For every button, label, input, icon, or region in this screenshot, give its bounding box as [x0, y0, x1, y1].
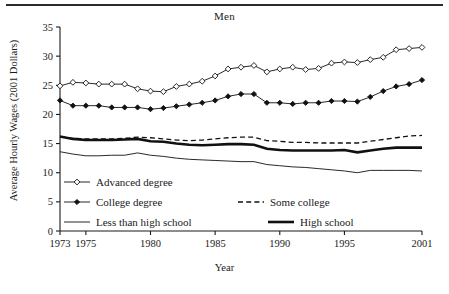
data-point-marker — [316, 100, 321, 105]
legend-label: Less than high school — [96, 216, 192, 228]
plot-area: 0510152025303519731975198019851990199520… — [0, 0, 449, 294]
data-point-marker — [419, 77, 424, 82]
data-point-marker — [406, 82, 411, 87]
x-tick-label: 2001 — [412, 238, 433, 249]
data-point-marker — [83, 80, 89, 86]
data-point-marker — [367, 57, 373, 63]
data-point-marker — [329, 60, 335, 66]
data-point-marker — [251, 91, 256, 96]
x-tick-label: 1995 — [334, 238, 355, 249]
y-tick-label: 25 — [43, 80, 54, 91]
data-point-marker — [303, 67, 309, 73]
data-point-marker — [316, 65, 322, 71]
data-point-marker — [355, 99, 360, 104]
data-point-marker — [187, 102, 192, 107]
axes: 0510152025303519731975198019851990199520… — [43, 22, 433, 249]
data-point-marker — [380, 54, 386, 60]
y-tick-label: 5 — [48, 196, 53, 207]
data-point-marker — [213, 98, 218, 103]
series-less-than-high-school — [60, 152, 422, 173]
data-point-marker — [96, 81, 102, 87]
legend-item-high-school: High school — [268, 216, 353, 228]
wage-chart-figure: Men Average Hourly Wages (2001 Dollars) … — [0, 0, 449, 294]
data-point-marker — [122, 105, 127, 110]
data-point-marker — [70, 103, 75, 108]
data-point-marker — [329, 98, 334, 103]
x-tick-label: 1990 — [269, 238, 290, 249]
data-point-marker — [57, 98, 62, 103]
data-point-marker — [264, 69, 270, 75]
data-point-marker — [342, 59, 348, 65]
data-point-marker — [290, 101, 295, 106]
series-advanced-degree — [57, 45, 425, 95]
x-tick-label: 1973 — [50, 238, 71, 249]
data-point-marker — [148, 107, 153, 112]
legend-label: Some college — [270, 196, 330, 208]
x-tick-label: 1980 — [140, 238, 161, 249]
data-point-marker — [212, 73, 218, 79]
data-point-marker — [238, 64, 244, 70]
series-group — [57, 45, 425, 173]
legend-item-some-college: Some college — [238, 196, 330, 208]
legend-label: College degree — [96, 196, 162, 208]
data-point-marker — [161, 105, 166, 110]
y-tick-label: 10 — [43, 167, 54, 178]
data-point-marker — [57, 83, 63, 89]
data-point-marker — [135, 105, 140, 110]
data-point-marker — [342, 98, 347, 103]
data-point-marker — [174, 104, 179, 109]
data-point-marker — [381, 89, 386, 94]
series-high-school — [60, 137, 422, 153]
data-point-marker — [277, 66, 283, 72]
y-tick-label: 20 — [43, 109, 54, 120]
data-point-marker — [135, 86, 141, 92]
legend-item-college: College degree — [64, 196, 162, 208]
data-point-marker — [394, 84, 399, 89]
data-point-marker — [419, 45, 425, 51]
data-point-marker — [225, 94, 230, 99]
y-tick-label: 0 — [48, 226, 53, 237]
data-point-marker — [109, 81, 115, 87]
data-point-marker — [406, 46, 412, 52]
data-point-marker — [393, 47, 399, 53]
data-point-marker — [225, 66, 231, 72]
legend-label: Advanced degree — [96, 176, 173, 188]
x-tick-label: 1985 — [205, 238, 226, 249]
data-point-marker — [264, 100, 269, 105]
data-point-marker — [148, 88, 154, 94]
data-point-marker — [173, 84, 179, 90]
legend-label: High school — [300, 216, 353, 228]
data-point-marker — [354, 60, 360, 66]
legend-item-less-than-hs: Less than high school — [64, 216, 192, 228]
y-tick-label: 35 — [43, 22, 54, 33]
data-point-marker — [199, 78, 205, 84]
data-point-marker — [109, 105, 114, 110]
data-point-marker — [303, 100, 308, 105]
data-point-marker — [186, 81, 192, 87]
data-point-marker — [251, 63, 257, 69]
legend: Advanced degreeCollege degreeSome colleg… — [64, 176, 353, 228]
data-point-marker — [122, 81, 128, 87]
data-point-marker — [277, 100, 282, 105]
data-point-marker — [96, 103, 101, 108]
data-point-marker — [200, 100, 205, 105]
data-point-marker — [238, 91, 243, 96]
y-tick-label: 15 — [43, 138, 54, 149]
y-tick-label: 30 — [43, 51, 54, 62]
data-point-marker — [290, 64, 296, 70]
legend-item-advanced: Advanced degree — [64, 176, 173, 188]
x-tick-label: 1975 — [75, 238, 96, 249]
data-point-marker — [161, 89, 167, 95]
data-point-marker — [83, 103, 88, 108]
data-point-marker — [368, 94, 373, 99]
data-point-marker — [70, 79, 76, 85]
